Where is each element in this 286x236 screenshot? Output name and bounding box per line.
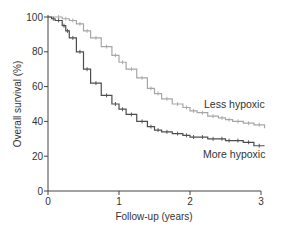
series-label-less-hypoxic: Less hypoxic [204, 98, 265, 110]
y-tick-label: 40 [32, 116, 44, 127]
y-tick-label: 80 [32, 46, 44, 57]
y-tick-label: 60 [32, 81, 44, 92]
survival-curve-less-hypoxic [48, 17, 265, 128]
y-tick-label: 0 [37, 186, 43, 197]
x-tick-label: 0 [45, 196, 51, 207]
series-label-more-hypoxic: More hypoxic [203, 148, 265, 160]
y-tick-label: 20 [32, 151, 44, 162]
x-axis-label: Follow-up (years) [115, 211, 192, 222]
y-axis-label: Overall survival (%) [12, 61, 23, 148]
km-survival-chart: 0204060801000123 Follow-up (years) Overa… [0, 0, 286, 236]
plot-series [48, 15, 265, 148]
x-tick-label: 1 [116, 196, 122, 207]
y-tick-label: 100 [26, 12, 43, 23]
x-tick-label: 2 [187, 196, 193, 207]
x-tick-label: 3 [258, 196, 264, 207]
survival-curve-more-hypoxic [48, 17, 265, 146]
